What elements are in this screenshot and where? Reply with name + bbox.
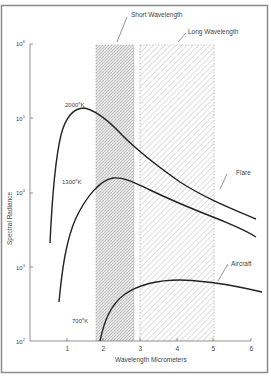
label-2000k: 2000oK xyxy=(65,100,85,108)
short-band-leader xyxy=(117,17,127,42)
short-wavelength-band xyxy=(96,45,134,341)
x-axis-label: Wavelength Micrometers xyxy=(115,356,187,364)
x-tick-1: 1 xyxy=(66,345,70,352)
long-wavelength-band xyxy=(140,45,214,341)
x-tick-6: 6 xyxy=(250,345,254,352)
aircraft-label: Aircraft xyxy=(231,260,252,267)
y-axis-label: Spectral Radiance xyxy=(6,192,14,245)
aircraft-leader xyxy=(218,264,228,281)
y-tick-1e2: 102 xyxy=(16,337,26,345)
short-band-label: Short Wavelength xyxy=(131,11,183,19)
long-band-leader xyxy=(178,33,186,42)
x-axis: 1 2 3 4 5 6 Wavelength Micrometers xyxy=(30,338,254,364)
x-tick-3: 3 xyxy=(139,345,143,352)
y-tick-1e5: 105 xyxy=(16,114,26,122)
flare-leader xyxy=(220,174,227,189)
x-tick-2: 2 xyxy=(102,345,106,352)
y-tick-1e6: 106 xyxy=(16,39,26,47)
x-tick-5: 5 xyxy=(212,345,216,352)
y-tick-1e3: 103 xyxy=(16,263,26,271)
spectral-radiance-chart: Short Wavelength Long Wavelength 106 105… xyxy=(0,0,271,377)
figure-frame xyxy=(2,6,268,373)
label-1300k: 1300oK xyxy=(62,177,82,185)
y-axis: 106 105 104 103 102 Spectral Radiance xyxy=(6,39,33,345)
label-700k: 700oK xyxy=(72,316,88,324)
flare-label: Flare xyxy=(236,169,251,176)
long-band-label: Long Wavelength xyxy=(188,28,239,36)
y-tick-1e4: 104 xyxy=(16,188,26,196)
x-tick-4: 4 xyxy=(176,345,180,352)
